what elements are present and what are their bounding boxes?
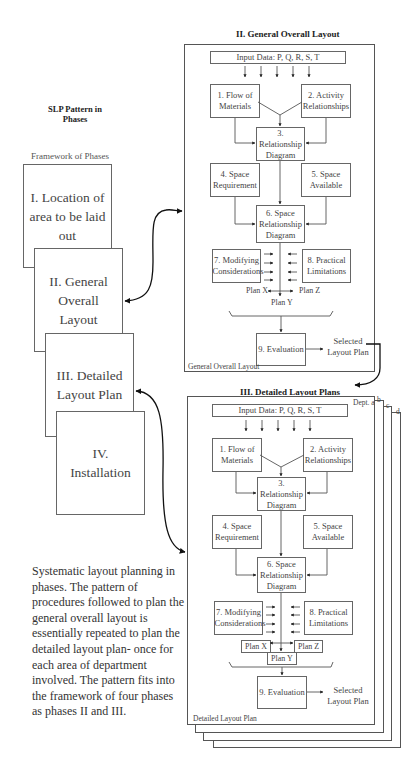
detailed-node-5-label: 5. Space Available (308, 521, 348, 543)
general-node-6: 6. Space Relationship Diagram (256, 205, 305, 243)
phase-3-label: III. Detailed Layout Plan (50, 366, 129, 404)
detailed-node-7-label: 7. Modifying Considerations (215, 607, 263, 629)
general-node-8: 8. Practical Limitations (302, 249, 351, 283)
detailed-input-data-label: Input Data: P, Q, R, S, T (239, 405, 322, 416)
general-node-9: 9. Evaluation (256, 333, 306, 366)
general-frame-footer: General Overall Layout (188, 362, 259, 371)
dept-a-label: Dept. a (353, 398, 375, 407)
detailed-node-1-label: 1. Flow of Materials (215, 444, 259, 466)
dept-c-label: c (386, 401, 389, 410)
framework-label: Framework of Phases (31, 151, 109, 161)
general-node-3: 3. Relationship Diagram (256, 127, 305, 161)
detailed-node-7: 7. Modifying Considerations (214, 601, 263, 635)
general-node-5: 5. Space Available (301, 163, 351, 197)
general-node-4-label: 4. Space Requirement (211, 169, 259, 191)
general-node-3-label: 3. Relationship Diagram (257, 128, 304, 161)
detailed-node-8: 8. Practical Limitations (304, 601, 353, 635)
diagram-title-line1: SLP Pattern in (30, 104, 120, 114)
dept-d-label: d (396, 407, 400, 416)
detailed-node-4: 4. Space Requirement (212, 515, 262, 549)
detailed-node-2-label: 2. Activity Relationships (304, 444, 352, 466)
detailed-plan-z: Plan Z (294, 640, 323, 653)
detailed-plan-y: Plan Y (267, 652, 297, 665)
general-node-4: 4. Space Requirement (210, 163, 260, 197)
detailed-node-5: 5. Space Available (303, 515, 353, 549)
detailed-node-8-label: 8. Practical Limitations (307, 607, 351, 629)
general-selected-layout-plan: Selected Layout Plan (326, 336, 370, 358)
detailed-node-6-label: 6. Space Relationship Diagram (258, 559, 305, 592)
general-plan-z: Plan Z (299, 286, 320, 295)
general-input-data-bar: Input Data: P, Q, R, S, T (210, 51, 346, 64)
general-node-1: 1. Flow of Materials (210, 84, 260, 118)
phase-1-label: I. Location of area to be laid out (28, 188, 107, 245)
detailed-node-4-label: 4. Space Requirement (213, 521, 261, 543)
phase-2-label: II. General Overall Layout (39, 272, 118, 329)
general-node-2-label: 2. Activity Relationships (302, 90, 350, 112)
general-node-1-label: 1. Flow of Materials (213, 90, 257, 112)
detailed-selected-layout-plan: Selected Layout Plan (326, 685, 370, 707)
detailed-node-1: 1. Flow of Materials (212, 438, 262, 472)
general-node-7: 7. Modifying Considerations (212, 249, 261, 283)
diagram-title: SLP Pattern in Phases (30, 104, 120, 124)
general-node-5-label: 5. Space Available (306, 169, 346, 191)
diagram-title-line2: Phases (30, 114, 120, 124)
general-plan-x: Plan X (246, 286, 268, 295)
detailed-input-data-bar: Input Data: P, Q, R, S, T (212, 404, 348, 417)
general-node-9-label: 9. Evaluation (258, 344, 303, 355)
general-node-7-label: 7. Modifying Considerations (213, 255, 261, 277)
general-input-data-label: Input Data: P, Q, R, S, T (237, 52, 320, 63)
general-node-2: 2. Activity Relationships (301, 84, 351, 118)
general-node-8-label: 8. Practical Limitations (305, 255, 349, 277)
general-layout-title: II. General Overall Layout (236, 29, 340, 39)
detailed-node-3: 3. Relationship Diagram (257, 477, 306, 511)
phase-4-label: IV. Installation (61, 444, 140, 482)
detailed-node-9: 9. Evaluation (257, 676, 307, 709)
detailed-node-9-label: 9. Evaluation (259, 687, 304, 698)
detailed-node-6: 6. Space Relationship Diagram (257, 557, 306, 593)
dept-b-label: b (377, 395, 381, 404)
detailed-node-2: 2. Activity Relationships (303, 438, 353, 472)
general-plan-y: Plan Y (271, 298, 293, 307)
detailed-node-3-label: 3. Relationship Diagram (258, 478, 305, 511)
figure-caption: Systematic layout planning in phases. Th… (32, 564, 184, 720)
detailed-frame-footer: Detailed Layout Plan (193, 714, 257, 723)
phase-4-box: IV. Installation (56, 411, 145, 515)
general-node-6-label: 6. Space Relationship Diagram (257, 208, 304, 241)
phase2-general-link (125, 210, 182, 301)
